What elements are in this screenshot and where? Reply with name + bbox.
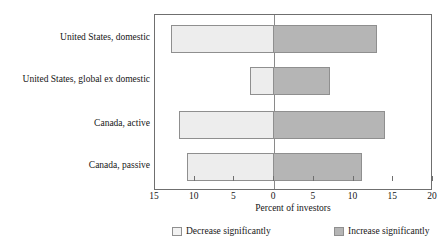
bar-row (155, 25, 431, 53)
x-axis-title: Percent of investors (154, 203, 432, 213)
legend-swatch-increase-icon (334, 227, 344, 236)
x-tick-label: 5 (231, 191, 236, 201)
bar-segment (274, 153, 361, 181)
x-tick-label: 15 (149, 191, 159, 201)
bar-segment (274, 111, 385, 139)
x-tick (233, 176, 234, 181)
bar-segment (171, 25, 274, 53)
bar-segment (187, 153, 274, 181)
x-tick-label: 5 (310, 191, 315, 201)
legend-item-increase: Increase significantly (334, 226, 430, 236)
x-tick-label: 10 (348, 191, 358, 201)
x-tick (432, 176, 433, 181)
bar-chart: United States, domestic United States, g… (0, 0, 445, 248)
category-axis-labels: United States, domestic United States, g… (0, 0, 150, 190)
x-tick-label: 20 (427, 191, 437, 201)
category-label-2: Canada, active (94, 118, 150, 129)
plot-area (154, 14, 432, 190)
bar-segment (250, 67, 274, 95)
x-tick-label: 0 (271, 191, 276, 201)
legend-label-decrease: Decrease significantly (186, 226, 271, 236)
category-label-1: United States, global ex domestic (23, 74, 150, 85)
legend-label-increase: Increase significantly (348, 226, 430, 236)
x-tick-label: 10 (189, 191, 199, 201)
bar-segment (274, 67, 330, 95)
legend-swatch-decrease-icon (172, 227, 182, 236)
x-tick (313, 176, 314, 181)
x-tick (154, 176, 155, 181)
x-tick (353, 176, 354, 181)
x-tick-label: 15 (388, 191, 398, 201)
x-tick (392, 176, 393, 181)
bar-row (155, 153, 431, 181)
chart-legend: Decrease significantly Increase signific… (154, 226, 445, 242)
bar-segment (179, 111, 274, 139)
x-tick (273, 176, 274, 181)
category-label-3: Canada, passive (89, 160, 150, 171)
bar-segment (274, 25, 377, 53)
bar-row (155, 67, 431, 95)
legend-item-decrease: Decrease significantly (172, 226, 271, 236)
category-label-0: United States, domestic (60, 32, 150, 43)
x-tick (194, 176, 195, 181)
bar-row (155, 111, 431, 139)
